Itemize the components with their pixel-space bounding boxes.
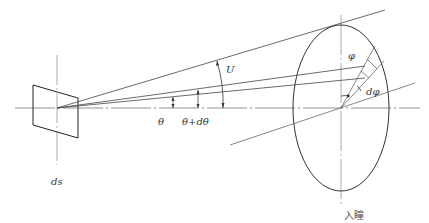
aperture-arrowhead-bottom-icon bbox=[222, 103, 225, 108]
ring-arc-outer bbox=[367, 59, 377, 69]
diagram-canvas: ds θ θ+dθ U φ dφ 入瞳 bbox=[0, 0, 429, 223]
label-ds: ds bbox=[51, 176, 63, 187]
diagram-svg bbox=[0, 0, 429, 223]
ray-theta bbox=[57, 78, 365, 108]
label-aperture-angle-u: U bbox=[226, 64, 234, 75]
surface-element-ds bbox=[33, 85, 78, 138]
radial-phi bbox=[341, 46, 375, 108]
theta-dtheta-arrowhead-top-icon bbox=[197, 90, 200, 94]
marginal-ray bbox=[57, 10, 385, 108]
ring-arc-inner bbox=[361, 71, 369, 78]
label-theta: θ bbox=[158, 116, 164, 127]
label-dphi: dφ bbox=[366, 86, 379, 97]
theta-dtheta-arrowhead-icon bbox=[197, 104, 200, 108]
label-entrance-pupil: 入瞳 bbox=[344, 207, 364, 222]
ray-theta-dtheta bbox=[57, 66, 365, 108]
theta-arrowhead-icon bbox=[172, 104, 175, 108]
label-theta-dtheta: θ+dθ bbox=[182, 116, 209, 127]
label-phi: φ bbox=[348, 50, 355, 61]
theta-arrowhead-top-icon bbox=[172, 97, 175, 101]
aperture-angle-arc bbox=[217, 61, 223, 108]
oblique-meridian-line bbox=[230, 83, 415, 145]
